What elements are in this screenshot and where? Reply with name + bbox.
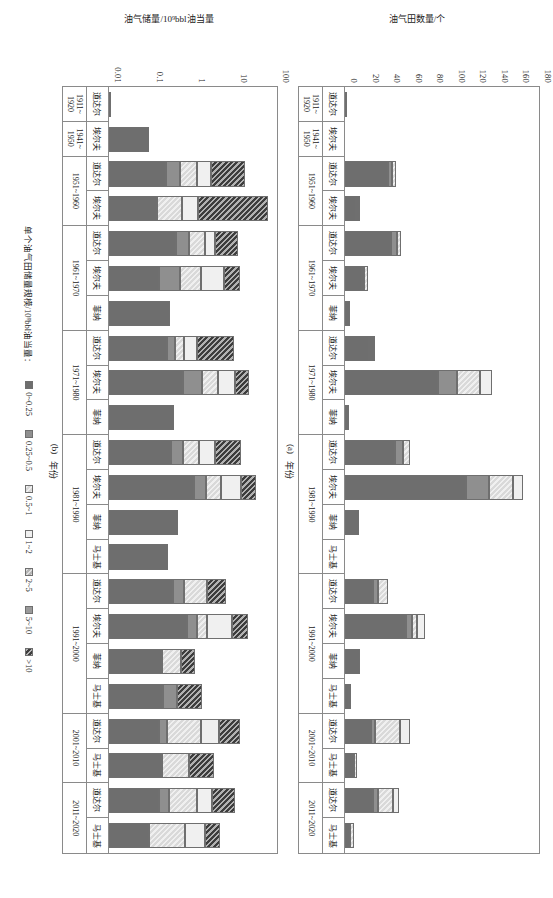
stacked-bar[interactable] [109,301,170,326]
stacked-bar[interactable] [345,510,359,535]
stacked-bar[interactable] [109,475,256,500]
company-label: 埃尔夫 [87,261,108,296]
bar-segment [375,719,400,744]
bar-segment [393,788,398,813]
stacked-bar[interactable] [109,544,168,569]
stacked-bar[interactable] [345,92,346,117]
stacked-bar[interactable] [345,161,396,186]
bar-segment [400,719,410,744]
stacked-bar[interactable] [109,753,214,778]
bar-segment [345,614,406,639]
bar-segment [109,440,171,465]
bar-segment [149,823,185,848]
bar-segment [181,649,195,674]
stacked-bar[interactable] [109,370,249,395]
stacked-bar[interactable] [345,579,388,604]
stacked-bar[interactable] [109,649,195,674]
stacked-bar[interactable] [109,196,268,221]
bar-segment [162,753,189,778]
company-label: 菲纳 [323,505,344,540]
stacked-bar[interactable] [109,614,249,639]
bar-slot [345,818,539,853]
bar-segment [109,92,111,117]
bar-segment [356,196,358,221]
stacked-bar[interactable] [109,579,226,604]
stacked-bar[interactable] [109,719,240,744]
company-label: 菲纳 [323,644,344,679]
stacked-bar[interactable] [345,684,351,709]
bar-slot [109,644,277,679]
stacked-bar[interactable] [345,753,357,778]
stacked-bar[interactable] [109,231,238,256]
bar-segment [345,405,349,430]
bar-segment [395,440,404,465]
stacked-bar[interactable] [109,788,235,813]
bar-slot [109,191,277,226]
stacked-bar[interactable] [345,475,523,500]
period-label: 1981~1990 [63,435,86,574]
panel-a-y-axis-label: 油气田数量/个 [389,12,446,25]
stacked-bar[interactable] [109,510,178,535]
company-label: 菲纳 [87,644,108,679]
stacked-bar[interactable] [345,231,401,256]
period-label: 1911~1920 [299,87,322,122]
legend-item: 5~10 [24,606,34,634]
legend-swatch-icon [25,606,33,614]
stacked-bar[interactable] [109,823,220,848]
bar-segment [205,231,215,256]
panel-a-company-axis: 道达尔埃尔夫道达尔埃尔夫道达尔埃尔夫菲纳道达尔埃尔夫菲纳道达尔埃尔夫菲纳马士基道… [322,86,344,854]
bar-segment [345,823,350,848]
bar-segment [345,370,438,395]
y-tick-label: 1 [197,79,207,83]
panel-a-x-axis-label: 年份 [283,86,296,854]
bar-segment [215,231,238,256]
stacked-bar[interactable] [345,336,375,361]
bar-segment [109,405,174,430]
period-label: 1951~1960 [63,157,86,227]
period-label: 1951~1960 [299,157,322,227]
bar-segment [358,196,360,221]
company-label: 埃尔夫 [323,366,344,401]
bar-segment [109,823,149,848]
stacked-bar[interactable] [345,266,368,291]
stacked-bar[interactable] [109,336,234,361]
company-label: 道达尔 [323,87,344,122]
bar-segment [235,370,249,395]
stacked-bar[interactable] [109,266,240,291]
bar-segment [109,370,183,395]
y-tick-label: 60 [414,74,424,83]
y-tick-label: 80 [435,74,445,83]
stacked-bar[interactable] [109,684,202,709]
stacked-bar[interactable] [109,161,245,186]
stacked-bar[interactable] [345,301,350,326]
bar-segment [189,231,205,256]
bar-segment [167,336,176,361]
bar-segment [345,475,466,500]
stacked-bar[interactable] [109,405,174,430]
stacked-bar[interactable] [345,370,492,395]
bar-segment [182,196,198,221]
stacked-bar[interactable] [345,823,354,848]
stacked-bar[interactable] [345,788,399,813]
stacked-bar[interactable] [109,440,241,465]
stacked-bar[interactable] [345,405,349,430]
stacked-bar[interactable] [345,196,360,221]
bar-segment [350,823,353,848]
stacked-bar[interactable] [345,719,410,744]
bar-segment [457,370,480,395]
company-label: 道达尔 [323,783,344,818]
company-label: 埃尔夫 [323,609,344,644]
stacked-bar[interactable] [345,649,360,674]
bar-slot [345,261,539,296]
bar-slot [345,679,539,714]
stacked-bar[interactable] [345,614,425,639]
stacked-bar[interactable] [109,127,149,152]
bar-segment [345,196,356,221]
bar-slot [345,157,539,192]
company-label: 道达尔 [87,435,108,470]
company-label: 道达尔 [87,87,108,122]
stacked-bar[interactable] [345,440,410,465]
bar-segment [177,684,201,709]
company-label: 埃尔夫 [87,191,108,226]
